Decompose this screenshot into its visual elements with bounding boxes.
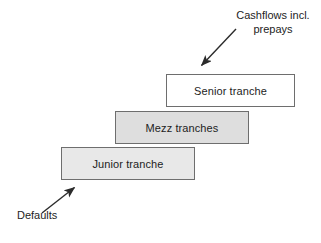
defaults-annotation-label: Defaults bbox=[17, 208, 57, 222]
mezz-tranches-box[interactable]: Mezz tranches bbox=[115, 111, 249, 144]
junior-tranche-box[interactable]: Junior tranche bbox=[61, 147, 195, 180]
senior-tranche-box[interactable]: Senior tranche bbox=[166, 74, 295, 107]
diagram-canvas: Cashflows incl. prepays Senior tranche M… bbox=[0, 0, 321, 243]
junior-tranche-label: Junior tranche bbox=[92, 158, 163, 170]
mezz-tranches-label: Mezz tranches bbox=[146, 122, 219, 134]
senior-tranche-label: Senior tranche bbox=[194, 85, 267, 97]
cashflows-annotation-label: Cashflows incl. prepays bbox=[228, 8, 318, 36]
